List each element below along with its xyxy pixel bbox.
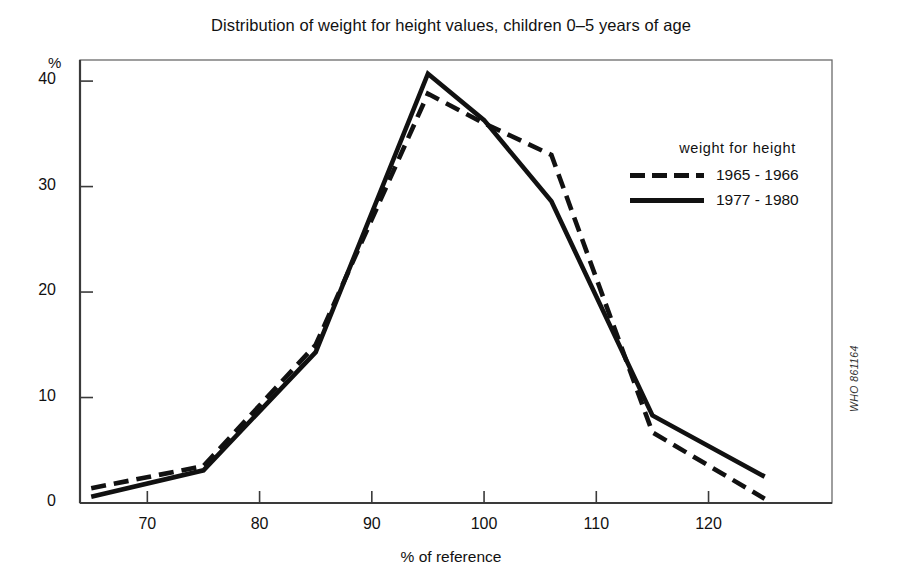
x-axis-tick-label: 100: [454, 515, 514, 533]
legend-item-1977-1980: 1977 - 1980: [630, 191, 845, 209]
source-code-label: WHO 861164: [848, 345, 860, 412]
x-axis-tick-label: 110: [566, 515, 626, 533]
y-axis-tick-label: 0: [10, 492, 56, 510]
legend-swatch-solid-icon: [630, 194, 704, 207]
y-axis-tick-label: 10: [10, 387, 56, 405]
legend-title: weight for height: [630, 140, 845, 156]
plot-frame: [80, 60, 832, 503]
legend-item-1965-1966: 1965 - 1966: [630, 166, 845, 184]
plot-area: [0, 0, 902, 585]
legend-label-1977-1980: 1977 - 1980: [716, 191, 799, 209]
chart-figure: Distribution of weight for height values…: [0, 0, 902, 585]
x-axis-tick-label: 90: [342, 515, 402, 533]
x-axis-tick-label: 80: [230, 515, 290, 533]
chart-legend: weight for height 1965 - 1966 1977 - 198…: [630, 140, 845, 216]
legend-label-1965-1966: 1965 - 1966: [716, 166, 799, 184]
x-axis-title: % of reference: [0, 548, 902, 566]
y-axis-tick-label: 30: [10, 176, 56, 194]
y-axis-tick-label: 20: [10, 281, 56, 299]
legend-swatch-dashed-icon: [630, 169, 704, 182]
x-axis-tick-label: 120: [679, 515, 739, 533]
y-axis-tick-label: 40: [10, 70, 56, 88]
series-line-1977-1980: [91, 74, 764, 497]
x-axis-tick-label: 70: [117, 515, 177, 533]
